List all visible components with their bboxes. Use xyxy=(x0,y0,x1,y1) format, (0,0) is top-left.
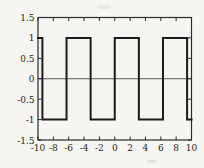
y-tick-label: -1 xyxy=(26,115,35,125)
y-tick-label: 0 xyxy=(29,74,35,84)
x-tick-label: -8 xyxy=(49,143,58,153)
y-tick-label: 1.5 xyxy=(20,13,35,23)
y-tick-label: 1 xyxy=(29,33,35,43)
figure: -10-8-6-4-20246810-1.5-1-0.500.511.5 xyxy=(0,0,204,168)
x-tick-label: 4 xyxy=(143,143,149,153)
y-tick-label: 0.5 xyxy=(20,54,35,64)
x-tick-label: 2 xyxy=(127,143,133,153)
x-tick-label: 6 xyxy=(158,143,164,153)
y-tick-label: -0.5 xyxy=(17,95,35,105)
x-tick-label: 8 xyxy=(173,143,179,153)
y-tick-label: -1.5 xyxy=(17,136,35,146)
x-tick-label: 10 xyxy=(186,143,198,153)
waveform-chart: -10-8-6-4-20246810-1.5-1-0.500.511.5 xyxy=(0,0,204,168)
x-tick-label: 0 xyxy=(112,143,118,153)
x-tick-label: -6 xyxy=(64,143,73,153)
scan-artifact xyxy=(97,5,111,9)
scan-artifact xyxy=(147,160,157,163)
x-tick-label: -2 xyxy=(95,143,104,153)
x-tick-label: -4 xyxy=(80,143,89,153)
